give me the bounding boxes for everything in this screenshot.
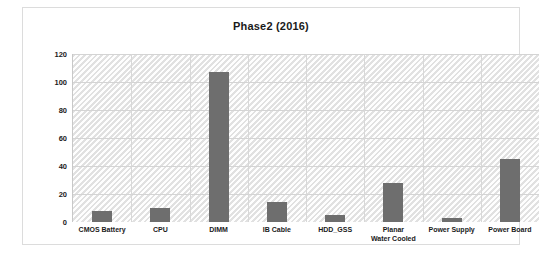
y-axis-tick-label: 40 [27, 162, 71, 171]
x-axis-category-label: DIMM [190, 225, 248, 234]
x-axis-category-label-line: Water Cooled [364, 234, 422, 243]
bar-slot [423, 54, 481, 222]
bar-slot [73, 54, 131, 222]
bar[interactable] [442, 218, 462, 222]
bar[interactable] [500, 159, 520, 222]
x-axis-category-label-line: CPU [153, 226, 168, 233]
x-axis-category-label: CMOS Battery [73, 225, 131, 234]
x-axis-category-label-line: Power Supply [428, 226, 474, 233]
y-axis-tick-label: 20 [27, 190, 71, 199]
bar-slot [190, 54, 248, 222]
x-axis-category-label: Power Board [481, 225, 539, 234]
x-axis-category-label-line: IB Cable [263, 226, 291, 233]
chart-frame: Phase2 (2016) 120100806040200 CMOS Batte… [22, 7, 520, 245]
y-axis-tick-label: 0 [27, 218, 71, 227]
bar-chart-figure: Phase2 (2016) 120100806040200 CMOS Batte… [0, 0, 551, 259]
y-axis-tick-label: 100 [27, 78, 71, 87]
y-axis-tick-label: 60 [27, 134, 71, 143]
bar-slot [306, 54, 364, 222]
bar[interactable] [150, 208, 170, 222]
x-axis-category-label-line: CMOS Battery [79, 226, 126, 233]
chart-title: Phase2 (2016) [23, 20, 519, 32]
bar[interactable] [92, 211, 112, 222]
bars-layer [73, 54, 539, 222]
x-axis-category-labels: CMOS BatteryCPUDIMMIB CableHDD_GSSPlanar… [73, 225, 539, 251]
x-axis-category-label: Power Supply [423, 225, 481, 234]
y-axis-tick-label: 80 [27, 106, 71, 115]
x-axis-category-label: CPU [131, 225, 189, 234]
y-axis-tick-label: 120 [27, 50, 71, 59]
bar-slot [248, 54, 306, 222]
bar-slot [131, 54, 189, 222]
x-axis-category-label-line: Power Board [488, 226, 531, 233]
bar[interactable] [325, 215, 345, 222]
x-axis-category-label-line: Planar [383, 226, 404, 233]
bar[interactable] [383, 183, 403, 222]
bar-slot [364, 54, 422, 222]
bar[interactable] [209, 72, 229, 222]
x-axis-category-label: IB Cable [248, 225, 306, 234]
x-axis-category-label-line: HDD_GSS [318, 226, 352, 233]
x-axis-category-label: HDD_GSS [306, 225, 364, 234]
bar-slot [481, 54, 539, 222]
y-axis-tick-labels: 120100806040200 [23, 8, 71, 259]
x-axis-category-label: PlanarWater Cooled [364, 225, 422, 243]
bar[interactable] [267, 202, 287, 222]
x-axis-category-label-line: DIMM [209, 226, 228, 233]
